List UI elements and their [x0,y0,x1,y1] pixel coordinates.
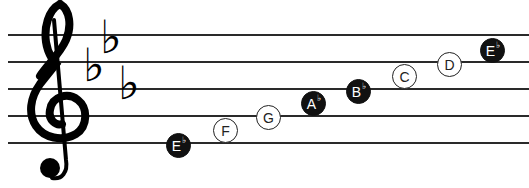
note-d: D [437,52,462,77]
note-g: G [256,105,281,130]
flat-a-icon: ♭ [118,56,140,110]
note-c: C [392,64,417,89]
treble-clef-icon [0,0,100,188]
flat-e-icon: ♭ [83,38,105,92]
note-e-flat-high: E♭ [480,38,505,63]
note-b-flat: B♭ [346,79,371,104]
note-a-flat: A♭ [301,91,326,116]
note-f: F [213,118,238,143]
note-e-flat-low: E♭ [166,133,191,158]
